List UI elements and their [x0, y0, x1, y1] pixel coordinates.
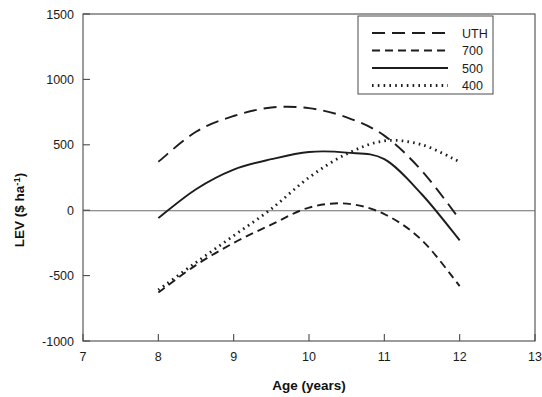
- y-axis-title-base: LEV ($ ha: [12, 185, 27, 247]
- y-tick-label: 1500: [46, 8, 74, 22]
- x-tick-label: 8: [155, 350, 162, 364]
- y-tick-label: 1000: [46, 73, 74, 87]
- y-tick-label: 500: [53, 138, 74, 152]
- x-axis-title: Age (years): [272, 378, 346, 393]
- legend-label-400: 400: [462, 79, 483, 93]
- lev-vs-age-chart: -1000-500050010001500 78910111213 LEV ($…: [0, 0, 542, 397]
- y-tick-label: 0: [67, 204, 74, 218]
- svg-text:LEV ($ ha-1): LEV ($ ha-1): [11, 173, 27, 247]
- x-tick-label: 7: [80, 350, 87, 364]
- y-tick-label: -1000: [42, 335, 74, 349]
- legend-label-UTH: UTH: [462, 27, 488, 41]
- x-tick-label: 10: [302, 350, 316, 364]
- legend-label-500: 500: [462, 62, 483, 76]
- x-tick-label: 11: [378, 350, 391, 364]
- y-axis-title: LEV ($ ha-1): [11, 173, 27, 247]
- x-tick-label: 9: [230, 350, 237, 364]
- legend-label-700: 700: [462, 44, 483, 58]
- x-axis-ticks: 78910111213: [80, 334, 542, 364]
- series-line-500: [158, 151, 459, 240]
- x-tick-label: 13: [528, 350, 542, 364]
- y-axis-title-tail: ): [12, 173, 27, 178]
- x-tick-label: 12: [453, 350, 467, 364]
- series-line-UTH: [158, 107, 459, 220]
- data-series-group: [158, 107, 459, 293]
- legend: UTH700500400: [358, 16, 493, 94]
- series-line-700: [158, 203, 459, 292]
- y-tick-label: -500: [49, 269, 74, 283]
